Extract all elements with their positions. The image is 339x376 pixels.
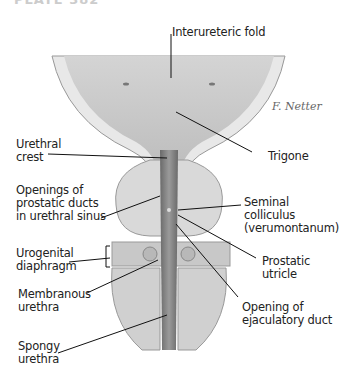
label-trigone: Trigone: [268, 150, 309, 163]
label-prostatic-utricle: Prostatic utricle: [262, 255, 310, 281]
label-urethral-crest: Urethral crest: [16, 138, 61, 164]
label-spongy-urethra: Spongy urethra: [18, 340, 60, 366]
label-urogenital-diaphragm: Urogenital diaphragm: [16, 247, 77, 273]
signature: F. Netter: [271, 100, 322, 113]
label-membranous-urethra: Membranous urethra: [18, 288, 91, 314]
label-opening-ejaculatory-duct: Opening of ejaculatory duct: [242, 301, 332, 327]
label-openings-prostatic-ducts: Openings of prostatic ducts in urethral …: [16, 184, 106, 223]
label-interureteric-fold: Interureteric fold: [172, 26, 265, 39]
label-seminal-colliculus: Seminal colliculus (verumontanum): [244, 196, 339, 235]
